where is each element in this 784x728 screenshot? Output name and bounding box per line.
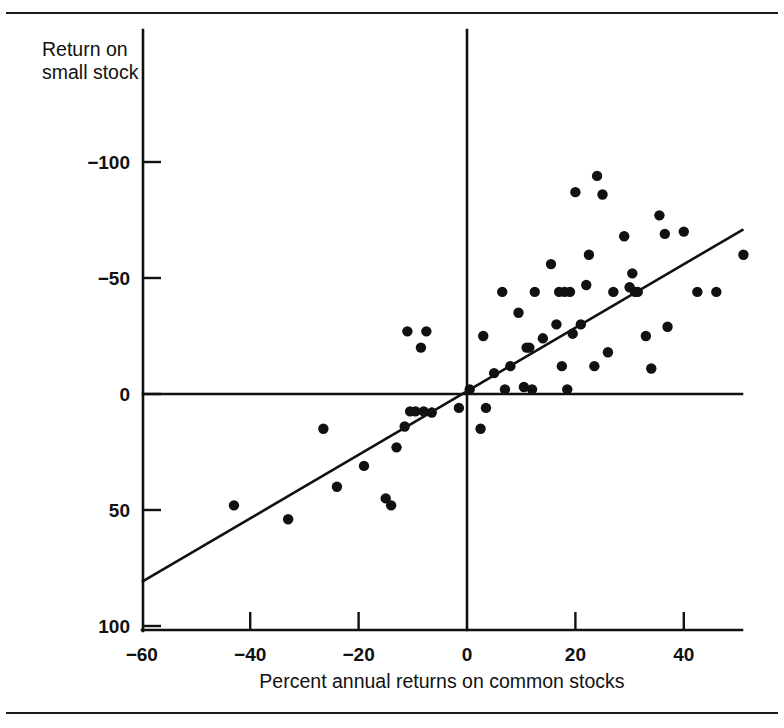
y-tick-group	[143, 162, 161, 626]
x-tick-label: −60	[126, 644, 158, 665]
data-point	[654, 210, 664, 220]
data-point	[619, 231, 629, 241]
data-point	[662, 322, 672, 332]
y-tick-label: 50	[109, 500, 130, 521]
figure-container: Return onsmall stock 100500−50−100 −60−4…	[0, 0, 784, 728]
data-point	[332, 482, 342, 492]
data-point	[497, 287, 507, 297]
y-tick-label: 0	[119, 384, 130, 405]
data-point	[646, 363, 656, 373]
data-point	[633, 287, 643, 297]
data-point	[641, 331, 651, 341]
data-point	[530, 287, 540, 297]
data-point	[581, 280, 591, 290]
data-point	[527, 384, 537, 394]
data-point	[505, 361, 515, 371]
data-point	[454, 403, 464, 413]
data-point	[592, 171, 602, 181]
data-point	[489, 368, 499, 378]
data-point	[513, 308, 523, 318]
data-point	[567, 328, 577, 338]
data-point	[557, 361, 567, 371]
data-point	[738, 250, 748, 260]
data-point	[391, 442, 401, 452]
data-point	[399, 421, 409, 431]
data-point	[679, 226, 689, 236]
data-point	[576, 319, 586, 329]
x-tick-label: −40	[234, 644, 266, 665]
y-tick-label: −100	[87, 152, 130, 173]
data-point	[359, 461, 369, 471]
data-point	[627, 268, 637, 278]
x-tick-label: 0	[462, 644, 473, 665]
data-point	[692, 287, 702, 297]
trend-line	[142, 229, 744, 582]
data-point	[589, 361, 599, 371]
data-point	[597, 189, 607, 199]
x-tick-label: −20	[342, 644, 374, 665]
data-point	[475, 424, 485, 434]
x-tick-label: 40	[673, 644, 694, 665]
data-point	[478, 331, 488, 341]
data-point	[711, 287, 721, 297]
data-point	[551, 319, 561, 329]
data-point	[465, 384, 475, 394]
x-axis-title: Percent annual returns on common stocks	[259, 670, 625, 692]
y-tick-label-group: 100500−50−100	[87, 152, 130, 637]
data-point	[538, 333, 548, 343]
data-point	[427, 407, 437, 417]
data-point	[584, 250, 594, 260]
data-point	[416, 342, 426, 352]
data-point	[546, 259, 556, 269]
data-point	[562, 384, 572, 394]
data-point	[608, 287, 618, 297]
data-point	[481, 403, 491, 413]
y-tick-label: 100	[98, 616, 130, 637]
data-point	[421, 326, 431, 336]
data-point	[603, 347, 613, 357]
data-point	[229, 500, 239, 510]
data-point	[570, 187, 580, 197]
data-point-group	[229, 171, 749, 525]
x-tick-label-group: −60−40−2002040	[126, 644, 695, 665]
data-point	[500, 384, 510, 394]
data-point	[386, 500, 396, 510]
data-point	[524, 342, 534, 352]
y-tick-label: −50	[98, 268, 130, 289]
data-point	[565, 287, 575, 297]
data-point	[318, 424, 328, 434]
data-point	[283, 514, 293, 524]
data-point	[660, 229, 670, 239]
scatter-plot: 100500−50−100 −60−40−2002040 Percent ann…	[0, 0, 784, 728]
data-point	[402, 326, 412, 336]
x-tick-label: 20	[565, 644, 586, 665]
